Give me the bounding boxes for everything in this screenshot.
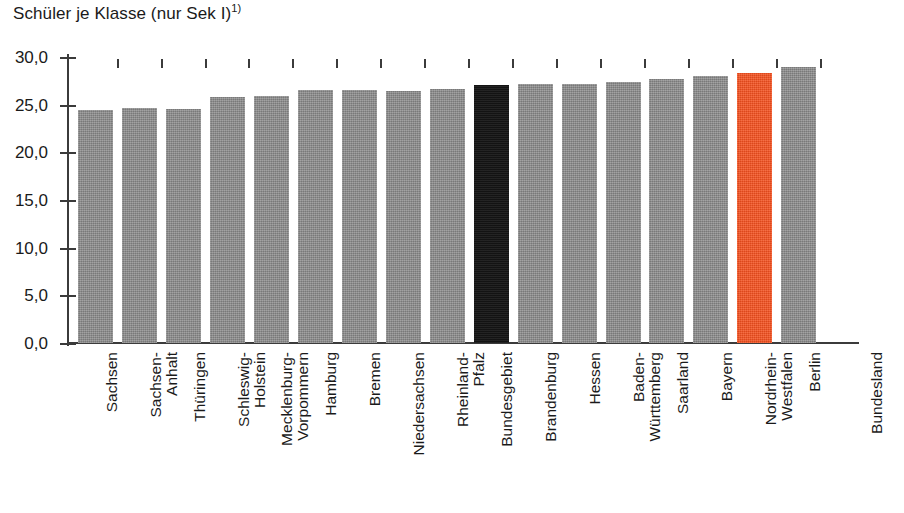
bar (781, 67, 816, 343)
x-tick (644, 59, 646, 68)
x-axis-category-label: Berlin (807, 352, 823, 502)
x-axis-category-label: Saarland (675, 352, 691, 502)
x-axis-category-label: Baden- Württemberg (631, 352, 663, 502)
bar (298, 90, 333, 343)
x-axis-category-label: Bundesgebiet (499, 352, 515, 502)
x-axis-category-label: Rheinland- Pfalz (455, 352, 487, 502)
plot-area: 0,05,010,015,020,025,030,0 (68, 57, 859, 343)
x-axis-category-label: Niedersachsen (411, 352, 427, 502)
x-axis-title: Bundesland (869, 352, 885, 502)
x-axis-category-labels: SachsenSachsen- AnhaltThüringenSchleswig… (68, 352, 859, 510)
bar (737, 73, 772, 343)
bar (166, 109, 201, 343)
x-tick (468, 59, 470, 68)
bar (518, 84, 553, 343)
bar-series (68, 57, 859, 343)
bar (386, 91, 421, 343)
x-tick (732, 59, 734, 68)
x-tick (380, 59, 382, 68)
y-tick-label: 30,0 (15, 48, 48, 68)
y-tick-label: 10,0 (15, 239, 48, 259)
bar (562, 84, 597, 343)
y-tick-label: 20,0 (15, 143, 48, 163)
bar (474, 85, 509, 343)
x-tick (512, 59, 514, 68)
x-tick (205, 59, 207, 68)
y-tick-label: 25,0 (15, 96, 48, 116)
x-axis-category-label: Thüringen (192, 352, 208, 502)
x-axis-category-label: Schleswig- Holstein (236, 352, 268, 502)
bar (606, 82, 641, 343)
bar (430, 89, 465, 343)
x-tick (688, 59, 690, 68)
bar (254, 96, 289, 343)
x-axis-category-label: Bayern (719, 352, 735, 502)
y-tick-label: 15,0 (15, 191, 48, 211)
x-axis-category-label: Nordrhein- Westfalen (763, 352, 795, 502)
x-tick (776, 59, 778, 68)
x-tick (600, 59, 602, 68)
chart-title-text: Schüler je Klasse (nur Sek I) (13, 4, 231, 23)
y-tick-label: 5,0 (24, 286, 48, 306)
chart-title: Schüler je Klasse (nur Sek I)1) (13, 2, 241, 24)
x-tick (161, 59, 163, 68)
bar (210, 97, 245, 343)
x-axis-category-label: Brandenburg (543, 352, 559, 502)
bar (342, 90, 377, 343)
x-tick (820, 59, 822, 68)
x-tick (292, 59, 294, 68)
y-tick-0: 0,0 (60, 343, 76, 345)
chart-title-footnote: 1) (231, 2, 241, 14)
x-axis-category-label: Hamburg (323, 352, 339, 502)
x-axis-category-label: Sachsen (104, 352, 120, 502)
y-tick-label: 0,0 (24, 334, 48, 354)
x-axis-category-label: Hessen (587, 352, 603, 502)
x-tick (424, 59, 426, 68)
x-axis-category-label: Bremen (367, 352, 383, 502)
x-tick (248, 59, 250, 68)
x-tick (117, 59, 119, 68)
x-tick (336, 59, 338, 68)
x-axis-category-label: Sachsen- Anhalt (148, 352, 180, 502)
bar (693, 76, 728, 343)
chart-root: Schüler je Klasse (nur Sek I)1) 0,05,010… (0, 0, 904, 513)
bar (649, 79, 684, 343)
x-tick (556, 59, 558, 68)
bar (78, 110, 113, 343)
bar (122, 108, 157, 343)
x-axis-category-label: Mecklenburg- Vorpommern (279, 352, 311, 502)
